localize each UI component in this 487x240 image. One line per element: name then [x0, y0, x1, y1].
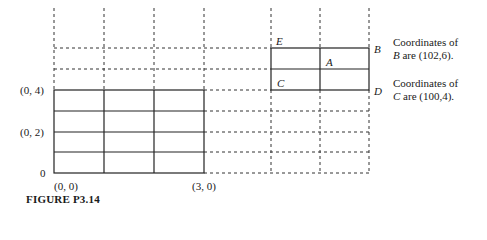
note-b-line1: Coordinates of	[393, 36, 458, 49]
note-c-line1: Coordinates of	[393, 77, 458, 90]
label-y4: (0, 4)	[20, 84, 44, 96]
note-b-line2: B are (102,6).	[393, 49, 458, 62]
note-c-value: are (100,4).	[400, 90, 454, 102]
label-x3: (3, 0)	[192, 180, 216, 192]
point-label-a: A	[326, 56, 333, 68]
point-label-b: B	[374, 43, 381, 55]
point-label-d: D	[374, 85, 382, 97]
label-y0: 0	[40, 167, 46, 179]
note-b-coordinates: Coordinates of B are (102,6).	[393, 36, 458, 62]
point-label-c: C	[277, 77, 284, 89]
figure-caption: FIGURE P3.14	[26, 193, 100, 205]
note-c-coordinates: Coordinates of C are (100,4).	[393, 77, 458, 103]
point-label-e: E	[276, 35, 283, 47]
label-y2: (0, 2)	[20, 126, 44, 138]
note-b-var: B	[393, 49, 400, 61]
note-c-line2: C are (100,4).	[393, 90, 458, 103]
label-origin: (0, 0)	[54, 180, 78, 192]
note-b-value: are (102,6).	[400, 49, 454, 61]
